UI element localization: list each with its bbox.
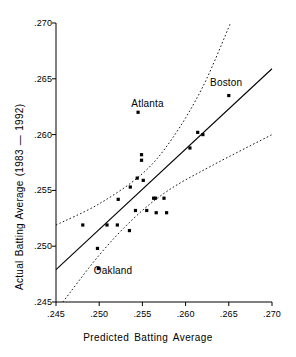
x-tick-label: .260 xyxy=(177,309,195,319)
y-tick-label: .245 xyxy=(18,297,52,307)
y-tick-label: .265 xyxy=(18,74,52,84)
y-axis-ticks xyxy=(52,23,56,302)
y-axis-title: Actual Batting Average (1983 — 1992) xyxy=(14,104,25,290)
data-point xyxy=(129,185,132,188)
data-point xyxy=(134,209,137,212)
x-tick-label: .265 xyxy=(220,309,238,319)
data-point xyxy=(196,131,199,134)
data-point xyxy=(227,94,230,97)
upper-confidence-band xyxy=(56,23,231,225)
data-point xyxy=(140,153,143,156)
data-point xyxy=(81,223,84,226)
y-tick-label: .270 xyxy=(18,18,52,28)
data-point xyxy=(128,229,131,232)
scatter-plot-figure: .245.250.255.260.265.270 .245.250.255.26… xyxy=(0,0,296,357)
data-point xyxy=(105,223,108,226)
data-point xyxy=(162,197,165,200)
data-point xyxy=(136,111,139,114)
data-point xyxy=(201,133,204,136)
x-tick-label: .255 xyxy=(133,309,151,319)
data-point xyxy=(188,146,191,149)
data-point xyxy=(116,223,119,226)
data-point xyxy=(136,177,139,180)
data-points xyxy=(81,94,230,270)
x-tick-label: .250 xyxy=(90,309,108,319)
annotation-label-atlanta: Atlanta xyxy=(131,98,164,109)
data-point xyxy=(145,209,148,212)
x-axis-ticks xyxy=(56,302,272,306)
data-point xyxy=(96,247,99,250)
data-point xyxy=(142,179,145,182)
x-axis-title: Predicted Batting Average xyxy=(0,332,296,343)
data-point xyxy=(165,211,168,214)
annotation-label-boston: Boston xyxy=(210,77,242,88)
data-point xyxy=(154,197,157,200)
x-tick-label: .245 xyxy=(47,309,65,319)
data-point xyxy=(117,198,120,201)
x-tick-label: .270 xyxy=(263,309,281,319)
data-point xyxy=(155,211,158,214)
annotation-label-oakland: Oakland xyxy=(94,265,133,276)
lower-confidence-band xyxy=(63,135,272,302)
axes xyxy=(52,23,272,306)
data-point xyxy=(140,159,143,162)
